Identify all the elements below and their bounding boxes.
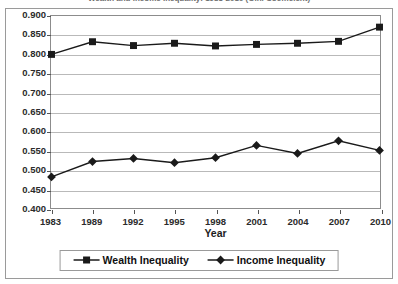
legend-item-1: Wealth Inequality: [73, 254, 189, 266]
y-tick-label: 0.500: [2, 164, 46, 175]
series-line: [51, 27, 379, 54]
data-point: [253, 41, 260, 48]
series-layer: [51, 16, 380, 208]
data-point: [294, 40, 301, 47]
data-point: [293, 149, 302, 158]
legend-diamond-marker-icon: [207, 254, 235, 266]
data-point: [129, 154, 138, 163]
legend-square-marker-icon: [73, 254, 101, 266]
x-tick-label: 1998: [205, 216, 226, 227]
x-tick-label: 2001: [246, 216, 267, 227]
data-point: [88, 157, 97, 166]
plot-area: [50, 15, 381, 209]
data-point: [211, 153, 220, 162]
data-point: [252, 141, 261, 150]
y-tick-label: 0.700: [2, 87, 46, 98]
legend-item-2: Income Inequality: [207, 254, 326, 266]
y-tick-label: 0.650: [2, 106, 46, 117]
x-tick-label: 1983: [40, 216, 61, 227]
y-tick-label: 0.550: [2, 145, 46, 156]
y-tick-label: 0.750: [2, 67, 46, 78]
data-point: [376, 24, 383, 31]
x-axis-labels: 198319891992199519982001200420072010: [50, 210, 381, 226]
data-point: [89, 38, 96, 45]
x-tick-label: 2007: [329, 216, 350, 227]
x-tick-label: 2010: [370, 216, 391, 227]
y-axis-labels: 0.9000.8500.8000.7500.7000.6500.6000.550…: [0, 15, 46, 209]
chart-figure: Wealth and Income Inequality: 1983-2010 …: [0, 0, 398, 284]
y-tick-label: 0.600: [2, 125, 46, 136]
data-point: [130, 42, 137, 49]
x-tick-label: 1992: [122, 216, 143, 227]
legend-label: Income Inequality: [237, 254, 326, 266]
y-tick-label: 0.800: [2, 48, 46, 59]
data-point: [171, 40, 178, 47]
x-tick-label: 2004: [287, 216, 308, 227]
chart-legend: Wealth InequalityIncome Inequality: [60, 250, 339, 271]
x-tick-mark: [382, 210, 383, 214]
chart-title: Wealth and Income Inequality: 1983-2010 …: [0, 0, 398, 3]
x-axis-title: Year: [50, 227, 381, 239]
y-tick-label: 0.900: [2, 9, 46, 20]
x-tick-label: 1989: [81, 216, 102, 227]
data-point: [334, 136, 343, 145]
y-tick-label: 0.400: [2, 203, 46, 214]
legend-label: Wealth Inequality: [103, 254, 189, 266]
data-point: [170, 158, 179, 167]
y-tick-label: 0.450: [2, 184, 46, 195]
y-tick-label: 0.850: [2, 28, 46, 39]
data-point: [335, 38, 342, 45]
series-2: [47, 136, 384, 181]
series-1: [48, 24, 383, 58]
data-point: [48, 51, 55, 58]
data-point: [212, 42, 219, 49]
x-tick-label: 1995: [164, 216, 185, 227]
